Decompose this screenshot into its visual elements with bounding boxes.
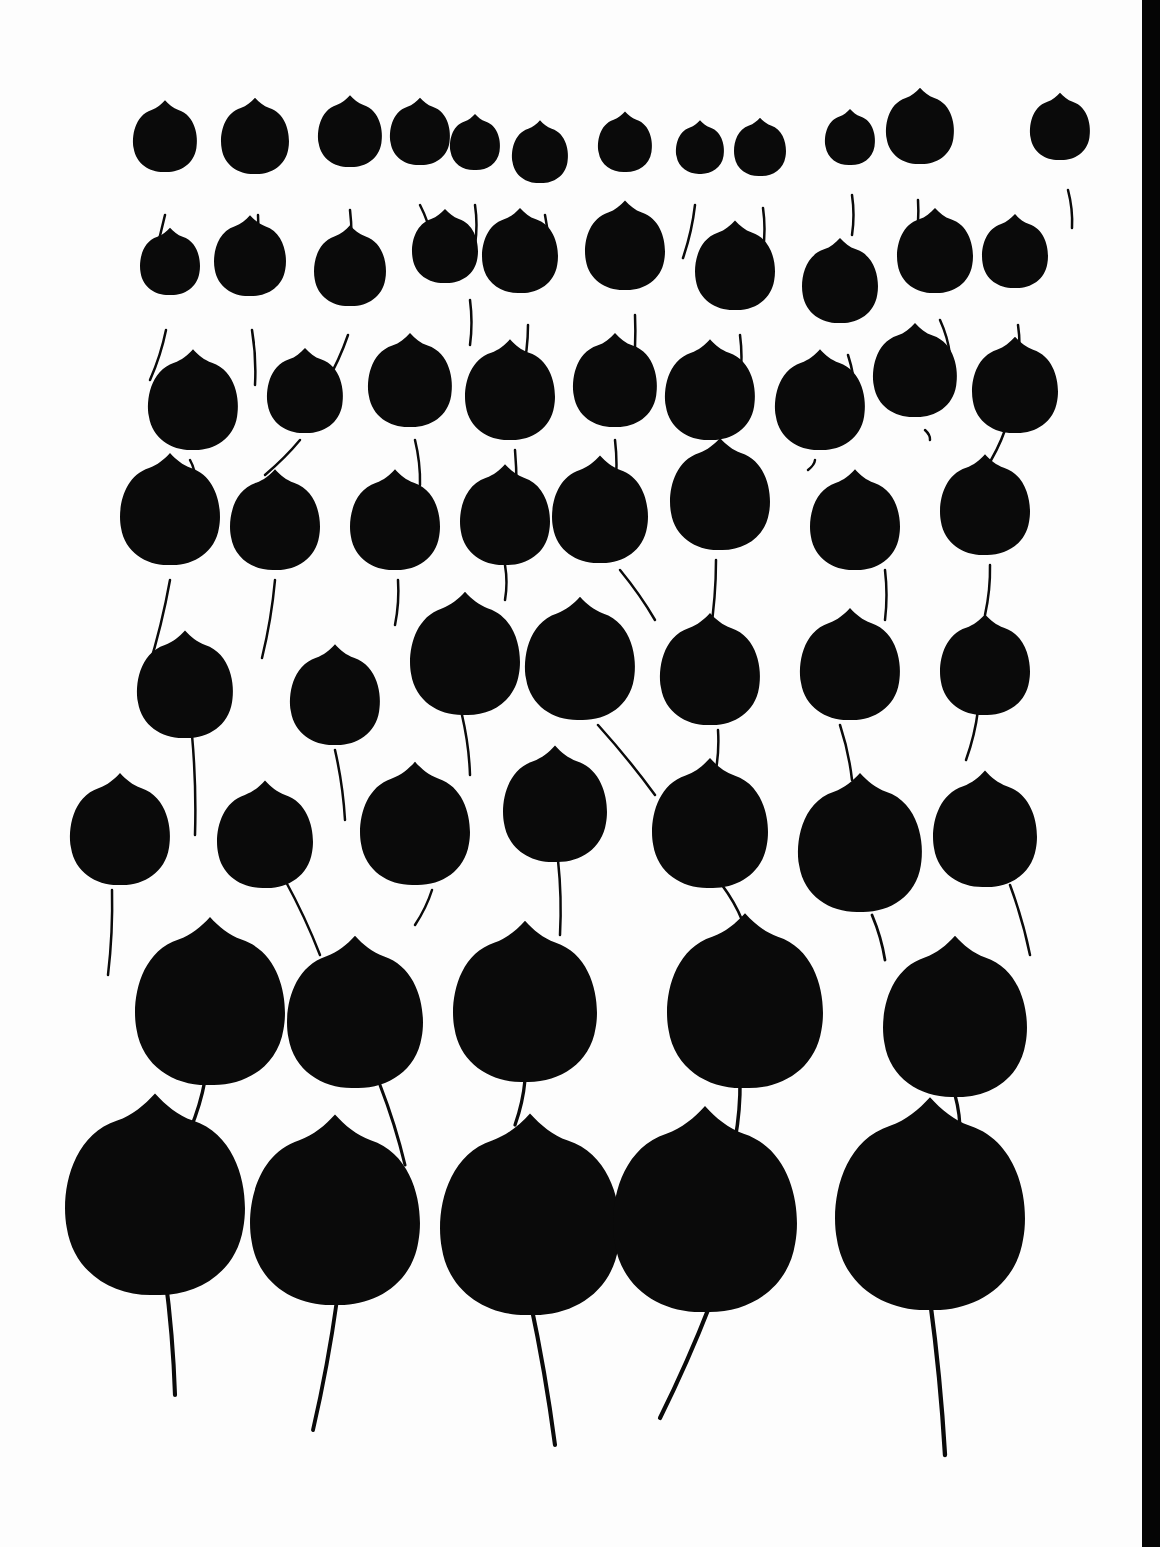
leaf-stem xyxy=(192,735,195,835)
leaf-blade xyxy=(933,771,1037,888)
leaf-icon xyxy=(800,608,900,780)
leaf-blade xyxy=(940,614,1030,715)
leaf-blade xyxy=(802,238,878,323)
leaf-icon xyxy=(410,592,520,775)
leaf-blade xyxy=(390,98,450,165)
leaf-blade xyxy=(667,913,823,1088)
leaf-stem xyxy=(265,440,300,475)
leaf-stem xyxy=(558,860,561,935)
leaf-stem xyxy=(285,880,320,955)
leaf-icon xyxy=(440,1113,620,1445)
leaf-blade xyxy=(318,95,382,167)
leaf-icon xyxy=(573,333,657,490)
paper-edge-band xyxy=(1142,0,1160,1547)
leaf-blade xyxy=(972,337,1058,433)
leaf-blade xyxy=(940,454,1030,555)
leaf-icon xyxy=(972,337,1058,470)
leaf-blade xyxy=(140,228,200,295)
leaf-stem xyxy=(722,885,742,920)
leaf-icon xyxy=(552,455,655,620)
leaf-blade xyxy=(798,773,922,912)
leaf-blade xyxy=(360,762,470,885)
leaf-icon xyxy=(230,469,320,658)
leaf-stem xyxy=(335,750,345,820)
leaf-blade xyxy=(214,215,286,296)
leaf-blade xyxy=(65,1093,245,1295)
leaf-stem xyxy=(1068,190,1072,228)
leaf-silhouettes xyxy=(0,0,1160,1547)
leaf-icon xyxy=(835,1097,1025,1455)
leaf-blade xyxy=(734,118,786,176)
leaf-blade xyxy=(217,780,313,888)
leaf-icon xyxy=(652,758,768,920)
leaf-icon xyxy=(940,614,1030,760)
leaf-icon xyxy=(873,323,957,440)
leaf-icon xyxy=(265,348,343,475)
leaf-icon xyxy=(70,773,170,975)
leaf-stem xyxy=(505,565,507,600)
leaf-blade xyxy=(695,220,775,310)
leaf-blade xyxy=(250,1115,420,1305)
leaf-blade xyxy=(825,109,875,165)
leaf-stem xyxy=(660,1305,710,1418)
leaf-blade xyxy=(135,917,285,1085)
leaf-blade xyxy=(598,112,652,172)
leaf-blade xyxy=(552,455,648,563)
leaf-stem xyxy=(470,300,472,345)
leaf-icon xyxy=(940,454,1030,615)
leaf-blade xyxy=(120,453,220,565)
leaf-blade xyxy=(410,592,520,715)
leaf-stem xyxy=(598,725,655,795)
leaf-stem xyxy=(395,580,398,625)
leaf-icon xyxy=(798,773,922,960)
leaf-icon xyxy=(825,109,875,235)
leaf-stem xyxy=(462,715,470,775)
leaf-blade xyxy=(883,936,1027,1097)
leaf-stem xyxy=(530,1300,555,1445)
leaf-blade xyxy=(70,773,170,885)
leaf-icon xyxy=(810,469,900,620)
leaf-blade xyxy=(450,114,500,170)
leaf-blade xyxy=(137,630,233,738)
leaf-blade xyxy=(835,1097,1025,1310)
leaf-stem xyxy=(262,580,275,658)
leaf-stem xyxy=(966,710,978,760)
leaf-stem xyxy=(515,1080,525,1125)
leaf-blade xyxy=(453,921,597,1082)
leaf-blade xyxy=(368,333,452,427)
leaf-blade xyxy=(503,746,607,863)
leaf-blade xyxy=(230,469,320,570)
leaf-icon xyxy=(460,464,550,600)
leaf-stem xyxy=(885,570,887,620)
leaf-blade xyxy=(314,225,386,306)
leaf-stem xyxy=(415,890,432,925)
leaf-blade xyxy=(810,469,900,570)
leaf-blade xyxy=(676,120,724,174)
leaf-blade xyxy=(287,936,423,1088)
leaf-icon xyxy=(290,644,380,820)
leaf-blade xyxy=(221,98,289,174)
leaf-blade xyxy=(465,339,555,440)
leaf-artwork-canvas xyxy=(0,0,1160,1547)
leaf-stem xyxy=(620,570,655,620)
leaf-stem xyxy=(852,195,854,235)
leaf-blade xyxy=(148,349,238,450)
leaf-blade xyxy=(512,120,568,183)
leaf-blade xyxy=(573,333,657,427)
leaf-stem xyxy=(313,1300,337,1430)
leaf-blade xyxy=(440,1113,620,1315)
leaf-icon xyxy=(1030,93,1090,228)
leaf-blade xyxy=(982,214,1048,288)
leaf-icon xyxy=(120,453,220,670)
leaf-blade xyxy=(350,469,440,570)
leaf-blade xyxy=(290,644,380,745)
leaf-blade xyxy=(412,209,478,283)
leaf-blade xyxy=(873,323,957,417)
leaf-icon xyxy=(368,333,452,485)
leaf-stem xyxy=(252,330,255,385)
leaf-blade xyxy=(133,100,197,172)
leaf-icon xyxy=(148,349,238,480)
leaf-icon xyxy=(412,209,478,345)
leaf-blade xyxy=(613,1106,797,1312)
leaf-stem xyxy=(985,565,990,615)
